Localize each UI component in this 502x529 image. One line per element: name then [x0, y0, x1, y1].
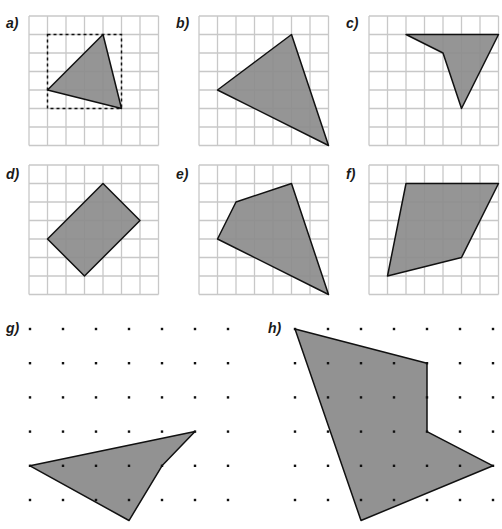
dot	[459, 362, 461, 364]
dot	[194, 396, 196, 398]
dot	[426, 465, 428, 467]
dot	[492, 362, 494, 364]
dot	[95, 499, 97, 501]
dot	[492, 396, 494, 398]
dot	[227, 465, 229, 467]
dot	[393, 465, 395, 467]
dot	[459, 465, 461, 467]
dot	[62, 362, 64, 364]
dot	[227, 499, 229, 501]
dot	[161, 396, 163, 398]
dot	[29, 396, 31, 398]
dot	[29, 465, 31, 467]
dot	[227, 362, 229, 364]
dot	[459, 430, 461, 432]
dot	[327, 362, 329, 364]
dot	[227, 396, 229, 398]
dot	[62, 396, 64, 398]
dot	[161, 430, 163, 432]
dot	[360, 465, 362, 467]
shape-h	[295, 329, 493, 521]
dot	[426, 362, 428, 364]
dot	[194, 430, 196, 432]
dot	[29, 430, 31, 432]
dot	[426, 499, 428, 501]
dot	[128, 465, 130, 467]
dot	[393, 430, 395, 432]
dot	[128, 396, 130, 398]
dot	[294, 396, 296, 398]
dot	[393, 362, 395, 364]
dot	[492, 328, 494, 330]
dot	[29, 362, 31, 364]
dot	[492, 465, 494, 467]
dot	[426, 396, 428, 398]
dot	[161, 328, 163, 330]
dot	[62, 430, 64, 432]
dot	[194, 465, 196, 467]
dot	[95, 362, 97, 364]
dot	[128, 328, 130, 330]
geometry-figures	[0, 0, 502, 529]
dot	[459, 499, 461, 501]
dot	[426, 430, 428, 432]
dot	[95, 430, 97, 432]
dot	[95, 328, 97, 330]
dot	[360, 362, 362, 364]
dot	[227, 328, 229, 330]
dot	[360, 499, 362, 501]
dot	[360, 328, 362, 330]
dot	[62, 328, 64, 330]
dot	[327, 328, 329, 330]
dot	[492, 430, 494, 432]
shape-g	[30, 432, 195, 521]
dot	[327, 465, 329, 467]
dot	[194, 499, 196, 501]
dot	[393, 328, 395, 330]
dot	[62, 465, 64, 467]
dot	[294, 430, 296, 432]
dot	[393, 499, 395, 501]
dot	[161, 465, 163, 467]
dot	[161, 499, 163, 501]
dot	[294, 499, 296, 501]
dot	[128, 362, 130, 364]
dot	[194, 362, 196, 364]
dot	[360, 396, 362, 398]
dot	[128, 430, 130, 432]
dot	[95, 396, 97, 398]
dot	[62, 499, 64, 501]
dot	[492, 499, 494, 501]
dot	[128, 499, 130, 501]
dot	[294, 328, 296, 330]
dot	[29, 328, 31, 330]
dot	[227, 430, 229, 432]
dot	[327, 396, 329, 398]
dot	[459, 328, 461, 330]
dot	[29, 499, 31, 501]
dot	[294, 465, 296, 467]
dot	[194, 328, 196, 330]
dot	[459, 396, 461, 398]
dot	[393, 396, 395, 398]
dot	[426, 328, 428, 330]
dot	[294, 362, 296, 364]
dot	[360, 430, 362, 432]
shape-d	[48, 184, 141, 277]
dot	[95, 465, 97, 467]
shape-f	[388, 184, 499, 277]
dot	[327, 499, 329, 501]
dot	[327, 430, 329, 432]
dot	[161, 362, 163, 364]
